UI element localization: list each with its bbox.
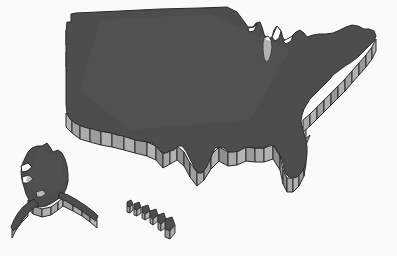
hawaii-island-6-side xyxy=(165,229,170,239)
us-3d-map-figure xyxy=(0,0,397,256)
us-map-svg xyxy=(0,0,397,256)
